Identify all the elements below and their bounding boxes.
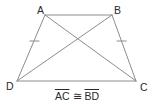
diagonal-ac (45, 15, 136, 81)
trapezoid-diagram: A B C D AC≅BD (0, 0, 154, 105)
congruence-caption: AC≅BD (0, 91, 154, 102)
segment-ac-label: AC (55, 90, 70, 102)
segment-bd-label: BD (85, 90, 100, 102)
congruent-symbol: ≅ (73, 90, 82, 102)
side-bc (112, 15, 136, 81)
vertex-label-a: A (37, 5, 44, 16)
vertex-label-d: D (6, 81, 14, 92)
vertex-label-b: B (114, 5, 121, 16)
